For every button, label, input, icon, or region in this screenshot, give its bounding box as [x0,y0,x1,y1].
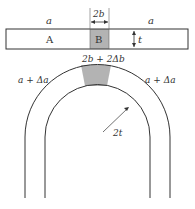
label-t: t [138,34,143,45]
label-a-delta-left: a + Δa [18,75,49,85]
bending-diagram: a a 2b A B t 2b + 2Δb a + Δa a + Δa 2t [0,0,195,209]
bent-bar: a + Δa a + Δa 2t [18,64,176,198]
straight-bar: a a 2b A B t 2b + 2Δb [6,8,188,64]
label-a-left: a [46,15,52,26]
label-A: A [45,34,54,45]
label-B: B [95,34,102,45]
label-2t: 2t [112,128,123,138]
label-a-right: a [148,15,154,26]
label-bent-width: 2b + 2Δb [81,54,125,64]
label-2b: 2b [92,9,105,19]
label-a-delta-right: a + Δa [145,75,176,85]
region-b-bent [81,65,111,86]
